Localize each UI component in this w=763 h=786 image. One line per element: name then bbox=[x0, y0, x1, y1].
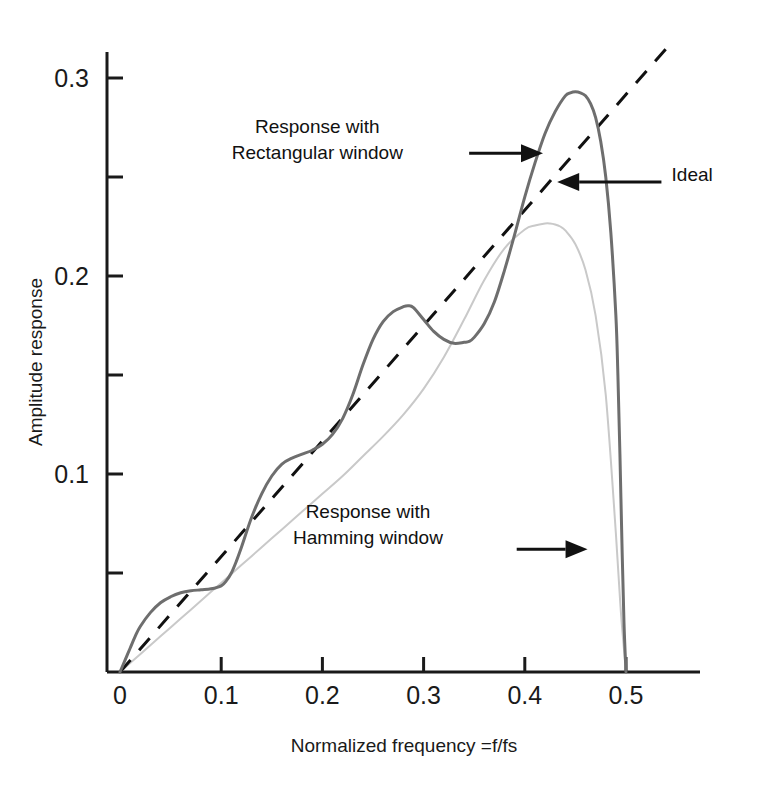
y-axis-title: Amplitude response bbox=[25, 278, 46, 446]
y-tick-label-0.1: 0.1 bbox=[54, 460, 89, 488]
x-tick-label-0.4: 0.4 bbox=[507, 681, 542, 709]
x-tick-label-0.1: 0.1 bbox=[204, 681, 239, 709]
chart-background bbox=[0, 0, 763, 786]
ideal-annotation-line-1: Ideal bbox=[672, 164, 713, 185]
y-tick-label-0.2: 0.2 bbox=[54, 262, 89, 290]
chart-canvas: 0.10.20.3 00.10.20.30.40.5 Response with… bbox=[0, 0, 763, 786]
y-tick-label-0.3: 0.3 bbox=[54, 64, 89, 92]
x-tick-label-0.3: 0.3 bbox=[406, 681, 441, 709]
amplitude-response-chart: 0.10.20.3 00.10.20.30.40.5 Response with… bbox=[0, 0, 763, 786]
rectangular-window-annotation-line-1: Response with bbox=[255, 116, 380, 137]
hamming-window-annotation-line-1: Response with bbox=[306, 501, 431, 522]
hamming-window-annotation-line-2: Hamming window bbox=[293, 527, 443, 548]
x-tick-label-0: 0 bbox=[113, 681, 127, 709]
x-axis-title: Normalized frequency =f/fs bbox=[291, 735, 518, 756]
x-tick-label-0.5: 0.5 bbox=[609, 681, 644, 709]
rectangular-window-annotation-line-2: Rectangular window bbox=[232, 142, 403, 163]
x-tick-label-0.2: 0.2 bbox=[305, 681, 340, 709]
